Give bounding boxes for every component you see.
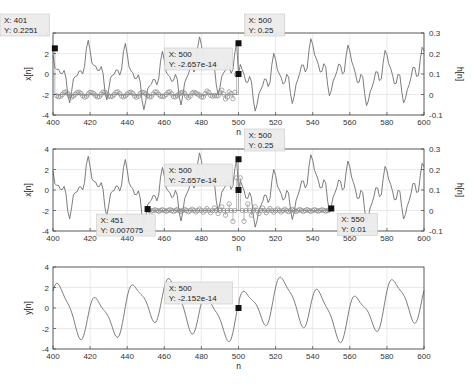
y-tick-label: -4: [42, 345, 50, 354]
y-right-tick-label: 0: [429, 91, 434, 100]
y-tick-label: -2: [42, 325, 50, 334]
y-right-tick-label: 0.1: [429, 70, 441, 79]
x-tick-label: 480: [195, 118, 209, 127]
x-tick-label: 520: [269, 118, 283, 127]
datatip-marker: [236, 156, 242, 162]
y-right-tick-label: 0.1: [429, 186, 441, 195]
datatip: X: 500Y: 0.25: [245, 129, 285, 151]
x-tick-label: 580: [380, 234, 394, 243]
datatip-y-text: Y: 0.007075: [101, 226, 144, 235]
datatip-y-text: Y: 0.25: [249, 141, 274, 150]
y-axis-label: x[n]: [23, 67, 33, 81]
y-tick-label: 0: [45, 304, 50, 313]
datatip-marker: [145, 206, 151, 212]
y-right-tick-label: -0.1: [429, 227, 443, 236]
y-tick-label: -2: [42, 207, 50, 216]
y-tick-label: 2: [45, 284, 50, 293]
datatip: X: 401Y: 0.2251: [0, 14, 49, 36]
x-tick-label: 560: [343, 352, 357, 361]
y-tick-label: 0: [45, 70, 50, 79]
y-tick-label: -4: [42, 227, 50, 236]
datatip-marker: [328, 205, 334, 211]
x-tick-label: 420: [83, 352, 97, 361]
y-axis-label: y[n]: [23, 301, 33, 315]
y-axis-label: x[n]: [23, 183, 33, 197]
datatip-marker: [236, 71, 242, 77]
datatip-y-text: Y: 0.01: [341, 225, 366, 234]
x-tick-label: 440: [121, 118, 135, 127]
figure: 400420440460480500520540560580600-4-2024…: [0, 0, 474, 387]
datatip-marker: [52, 45, 58, 51]
x-tick-label: 520: [269, 352, 283, 361]
datatip-y-text: Y: -2.657e-14: [169, 60, 218, 69]
datatip: X: 500Y: -2.152e-14: [165, 282, 233, 304]
y-tick-label: -2: [42, 91, 50, 100]
datatip-x-text: X: 401: [4, 16, 28, 25]
datatip: X: 500Y: -2.657e-14: [165, 164, 233, 186]
datatip-y-text: Y: -2.657e-14: [169, 176, 218, 185]
datatip-x-text: X: 550: [341, 215, 365, 224]
datatip-y-text: Y: -2.152e-14: [169, 294, 218, 303]
y-right-tick-label: -0.1: [429, 111, 443, 120]
datatip-y-text: Y: 0.2251: [4, 26, 38, 35]
y-right-tick-label: 0: [429, 207, 434, 216]
datatip-x-text: X: 451: [101, 216, 125, 225]
y-right-tick-label: 0.3: [429, 29, 441, 38]
datatip-x-text: X: 500: [169, 166, 193, 175]
x-axis-label: n: [236, 127, 241, 137]
x-tick-label: 420: [83, 118, 97, 127]
datatip: X: 500Y: -2.657e-14: [165, 48, 233, 70]
x-tick-label: 500: [232, 118, 246, 127]
x-axis-label: n: [236, 361, 241, 371]
x-tick-label: 500: [232, 234, 246, 243]
x-tick-label: 540: [306, 118, 320, 127]
x-axis-label: n: [236, 243, 241, 253]
datatip-y-text: Y: 0.25: [249, 26, 274, 35]
datatip-x-text: X: 500: [169, 284, 193, 293]
x-tick-label: 480: [195, 234, 209, 243]
x-tick-label: 540: [306, 352, 320, 361]
x-tick-label: 560: [343, 118, 357, 127]
y-tick-label: 0: [45, 186, 50, 195]
datatip-marker: [236, 40, 242, 46]
datatip-x-text: X: 500: [249, 131, 273, 140]
y-tick-label: 4: [45, 263, 50, 272]
datatip-marker: [236, 305, 242, 311]
axes-1: 400420440460480500520540560580600-4-2024…: [0, 14, 465, 137]
datatip-marker: [236, 187, 242, 193]
y-tick-label: 4: [45, 145, 50, 154]
x-tick-label: 600: [417, 352, 431, 361]
y-right-axis-label: h[n]: [455, 67, 465, 81]
x-tick-label: 460: [158, 234, 172, 243]
datatip-x-text: X: 500: [249, 16, 273, 25]
x-tick-label: 580: [380, 352, 394, 361]
y-right-tick-label: 0.3: [429, 145, 441, 154]
x-tick-label: 420: [83, 234, 97, 243]
datatip: X: 500Y: 0.25: [245, 14, 285, 36]
x-tick-label: 520: [269, 234, 283, 243]
datatip: X: 451Y: 0.007075: [97, 214, 156, 236]
x-tick-label: 540: [306, 234, 320, 243]
datatip: X: 550Y: 0.01: [337, 213, 377, 235]
y-tick-label: 2: [45, 50, 50, 59]
y-right-tick-label: 0.2: [429, 166, 441, 175]
axes-3: 400420440460480500520540560580600-4-2024…: [23, 263, 431, 371]
x-tick-label: 460: [158, 118, 172, 127]
axes-2: 400420440460480500520540560580600-4-2024…: [23, 129, 465, 253]
x-tick-label: 460: [158, 352, 172, 361]
y-right-tick-label: 0.2: [429, 50, 441, 59]
y-tick-label: 2: [45, 166, 50, 175]
x-tick-label: 580: [380, 118, 394, 127]
y-tick-label: -4: [42, 111, 50, 120]
y-right-axis-label: h[n]: [455, 183, 465, 197]
x-tick-label: 500: [232, 352, 246, 361]
datatip-x-text: X: 500: [169, 50, 193, 59]
x-tick-label: 440: [121, 352, 135, 361]
x-tick-label: 480: [195, 352, 209, 361]
